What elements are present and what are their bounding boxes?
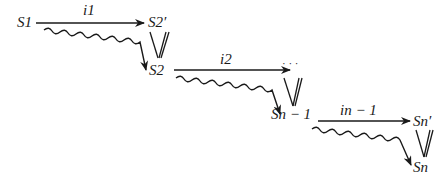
node-sn: Sn xyxy=(413,160,428,175)
edge-label-i2: i2 xyxy=(220,52,232,67)
node-s1: S1 xyxy=(17,15,32,30)
equivalence-s2prime-s2 xyxy=(150,32,169,58)
wavy-arrow-s1-s2 xyxy=(44,28,146,70)
edge-label-in-minus-1: in − 1 xyxy=(340,103,377,118)
edge-label-i1: i1 xyxy=(83,3,95,18)
node-ellipsis: · · · xyxy=(282,58,299,69)
node-sn-prime: Sn′ xyxy=(413,114,431,129)
wavy-arrow-s2-sn-minus-1 xyxy=(176,76,280,114)
node-s2: S2 xyxy=(149,63,164,78)
wavy-arrow-sn-minus-1-sn xyxy=(312,127,411,165)
state-diagram: S1 S2′ S2 · · · Sn − 1 Sn′ Sn i1 i2 in −… xyxy=(0,0,447,181)
node-sn-minus-1: Sn − 1 xyxy=(271,107,311,122)
equivalence-snprime-sn xyxy=(416,130,433,157)
node-s2-prime: S2′ xyxy=(148,15,166,30)
equivalence-ellipsis-sn-minus-1 xyxy=(284,78,302,106)
diagram-edges xyxy=(0,0,447,181)
